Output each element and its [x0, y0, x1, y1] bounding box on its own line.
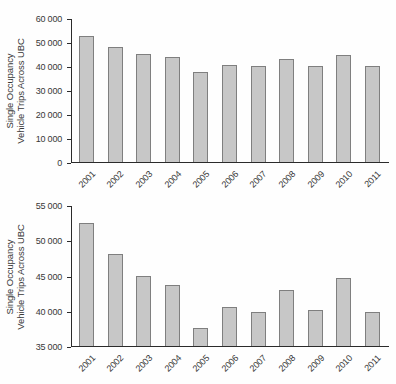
y-tick-mark — [67, 312, 71, 313]
y-tick-label: 50 000 — [0, 235, 62, 247]
x-tick-label: 2009 — [305, 169, 326, 190]
x-tick-label: 2006 — [219, 169, 240, 190]
bar-2002 — [108, 254, 123, 346]
y-tick-mark — [67, 241, 71, 242]
plot-area — [71, 19, 389, 163]
y-tick-label: 50 000 — [0, 37, 62, 49]
bar-2004 — [165, 57, 180, 162]
y-tick-label: 20 000 — [0, 109, 62, 121]
x-tick-label: 2010 — [334, 169, 355, 190]
x-tick-label: 2010 — [334, 353, 355, 374]
x-tick-label: 2005 — [191, 169, 212, 190]
bar-2005 — [193, 72, 208, 162]
bar-2010 — [336, 278, 351, 346]
x-tick-label: 2003 — [134, 169, 155, 190]
y-tick-mark — [67, 67, 71, 68]
bar-2009 — [308, 310, 323, 346]
x-tick-label: 2007 — [248, 169, 269, 190]
bar-2004 — [165, 285, 180, 346]
y-tick-label: 0 — [0, 157, 62, 169]
bar-2006 — [222, 65, 237, 162]
y-tick-mark — [67, 163, 71, 164]
bar-2007 — [251, 66, 266, 162]
bar-2009 — [308, 66, 323, 162]
x-tick-label: 2002 — [105, 169, 126, 190]
x-tick-label: 2001 — [76, 353, 97, 374]
y-tick-label: 60 000 — [0, 13, 62, 25]
bar-2011 — [365, 312, 380, 346]
y-tick-label: 30 000 — [0, 85, 62, 97]
x-tick-label: 2008 — [277, 353, 298, 374]
y-tick-mark — [67, 139, 71, 140]
y-tick-mark — [67, 115, 71, 116]
y-tick-mark — [67, 19, 71, 20]
y-tick-label: 55 000 — [0, 200, 62, 212]
x-tick-label: 2005 — [191, 353, 212, 374]
y-tick-mark — [67, 91, 71, 92]
y-tick-mark — [67, 206, 71, 207]
bar-2001 — [79, 223, 94, 346]
bar-2008 — [279, 290, 294, 346]
x-tick-label: 2009 — [305, 353, 326, 374]
chart-full-scale: Single Occupancy Vehicle Trips Across UB… — [0, 0, 396, 192]
bar-2010 — [336, 55, 351, 162]
bar-2007 — [251, 312, 266, 346]
y-tick-label: 10 000 — [0, 133, 62, 145]
bar-2011 — [365, 66, 380, 162]
y-tick-mark — [67, 277, 71, 278]
bar-2002 — [108, 47, 123, 162]
y-tick-label: 35 000 — [0, 341, 62, 353]
plot-area — [71, 206, 389, 347]
bar-2003 — [136, 276, 151, 347]
x-tick-label: 2011 — [363, 169, 383, 189]
x-tick-label: 2004 — [162, 353, 183, 374]
bar-2008 — [279, 59, 294, 162]
bar-2001 — [79, 36, 94, 162]
chart-truncated-scale: Single Occupancy Vehicle Trips Across UB… — [0, 192, 396, 384]
y-tick-mark — [67, 347, 71, 348]
y-tick-label: 45 000 — [0, 271, 62, 283]
x-tick-label: 2007 — [248, 353, 269, 374]
bar-2005 — [193, 328, 208, 346]
x-tick-label: 2001 — [76, 169, 97, 190]
x-tick-label: 2008 — [277, 169, 298, 190]
x-tick-label: 2004 — [162, 169, 183, 190]
y-tick-label: 40 000 — [0, 61, 62, 73]
y-tick-label: 40 000 — [0, 306, 62, 318]
x-tick-label: 2003 — [134, 353, 155, 374]
figure-sov-trips-comparison: Single Occupancy Vehicle Trips Across UB… — [0, 0, 396, 384]
bar-2006 — [222, 307, 237, 346]
bar-2003 — [136, 54, 151, 162]
x-tick-label: 2006 — [219, 353, 240, 374]
x-tick-label: 2011 — [363, 353, 383, 373]
y-tick-mark — [67, 43, 71, 44]
x-tick-label: 2002 — [105, 353, 126, 374]
